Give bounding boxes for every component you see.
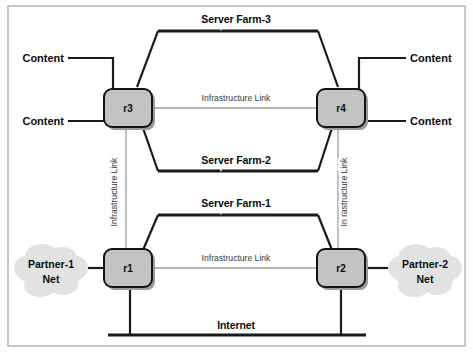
router-label-r4: r4 xyxy=(336,103,346,114)
router-label-r2: r2 xyxy=(336,263,346,274)
router-label-r3: r3 xyxy=(123,103,133,114)
endpoint-label-content-bottom-left: Content xyxy=(22,115,64,127)
endpoint-label-content-top-left: Content xyxy=(22,52,64,64)
router-label-r1: r1 xyxy=(123,263,133,274)
diagram-canvas: r3 r4 r1 r2 Server Farm-3 Server Farm-3 … xyxy=(0,0,473,352)
cloud-label-partner-2-net-line1: Partner-2 xyxy=(402,258,448,270)
infra-link-top-label: Infrastructure Link xyxy=(202,93,271,103)
infra-link-left-label: Infrastructure Link xyxy=(109,157,119,226)
cloud-label-partner-1-net-line2: Net xyxy=(43,273,60,285)
infra-link-bottom-label: Infrastructure Link xyxy=(202,253,271,263)
endpoint-label-content-bottom-right: Content xyxy=(410,115,452,127)
segment-label-internet: Internet xyxy=(217,319,255,331)
endpoint-label-content-top-right: Content xyxy=(410,52,452,64)
segment-label-server-farm-3: Server Farm-3 xyxy=(201,13,271,25)
segment-label-server-farm-1: Server Farm-1 xyxy=(201,197,271,209)
cloud-label-partner-1-net-line1: Partner-1 xyxy=(28,258,74,270)
cloud-label-partner-2-net-line2: Net xyxy=(417,273,434,285)
segment-label-server-farm-2: Server Farm-2 xyxy=(201,154,271,166)
infra-link-right-label: In rastructure Link xyxy=(339,157,349,226)
network-diagram: r3 r4 r1 r2 Server Farm-3 Server Farm-3 … xyxy=(0,0,473,352)
